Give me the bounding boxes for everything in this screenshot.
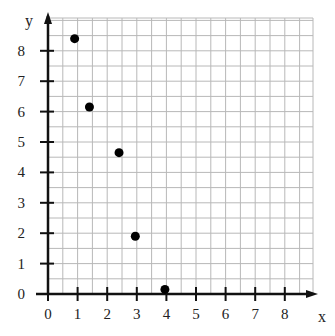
x-tick-label: 6	[222, 306, 230, 322]
y-tick-label: 5	[18, 134, 26, 150]
y-tick-label: 3	[18, 195, 26, 211]
data-point	[115, 148, 124, 157]
y-tick-label: 6	[18, 104, 26, 120]
data-point	[160, 285, 169, 294]
x-tick-label: 0	[44, 306, 52, 322]
axes	[36, 12, 318, 298]
x-tick-label: 5	[192, 306, 200, 322]
grid-lines	[48, 18, 313, 294]
y-tick-label: 0	[18, 286, 26, 302]
y-tick-label: 8	[18, 43, 26, 59]
y-tick-label: 2	[18, 225, 26, 241]
y-tick-label: 4	[18, 164, 26, 180]
data-point	[70, 34, 79, 43]
x-tick-label: 8	[281, 306, 289, 322]
x-tick-label: 7	[251, 306, 259, 322]
y-axis-label: y	[25, 12, 33, 30]
x-tick-label: 4	[163, 306, 171, 322]
data-point	[131, 232, 140, 241]
y-tick-label: 7	[18, 73, 26, 89]
data-point	[85, 103, 94, 112]
scatter-chart: 012345678 012345678 x y	[0, 0, 335, 336]
x-tick-label: 1	[74, 306, 82, 322]
x-tick-label: 2	[103, 306, 111, 322]
x-tick-label: 3	[133, 306, 141, 322]
data-points	[70, 34, 169, 294]
y-axis-ticks: 012345678	[18, 43, 55, 302]
x-axis-label: x	[318, 308, 326, 325]
y-tick-label: 1	[18, 256, 26, 272]
